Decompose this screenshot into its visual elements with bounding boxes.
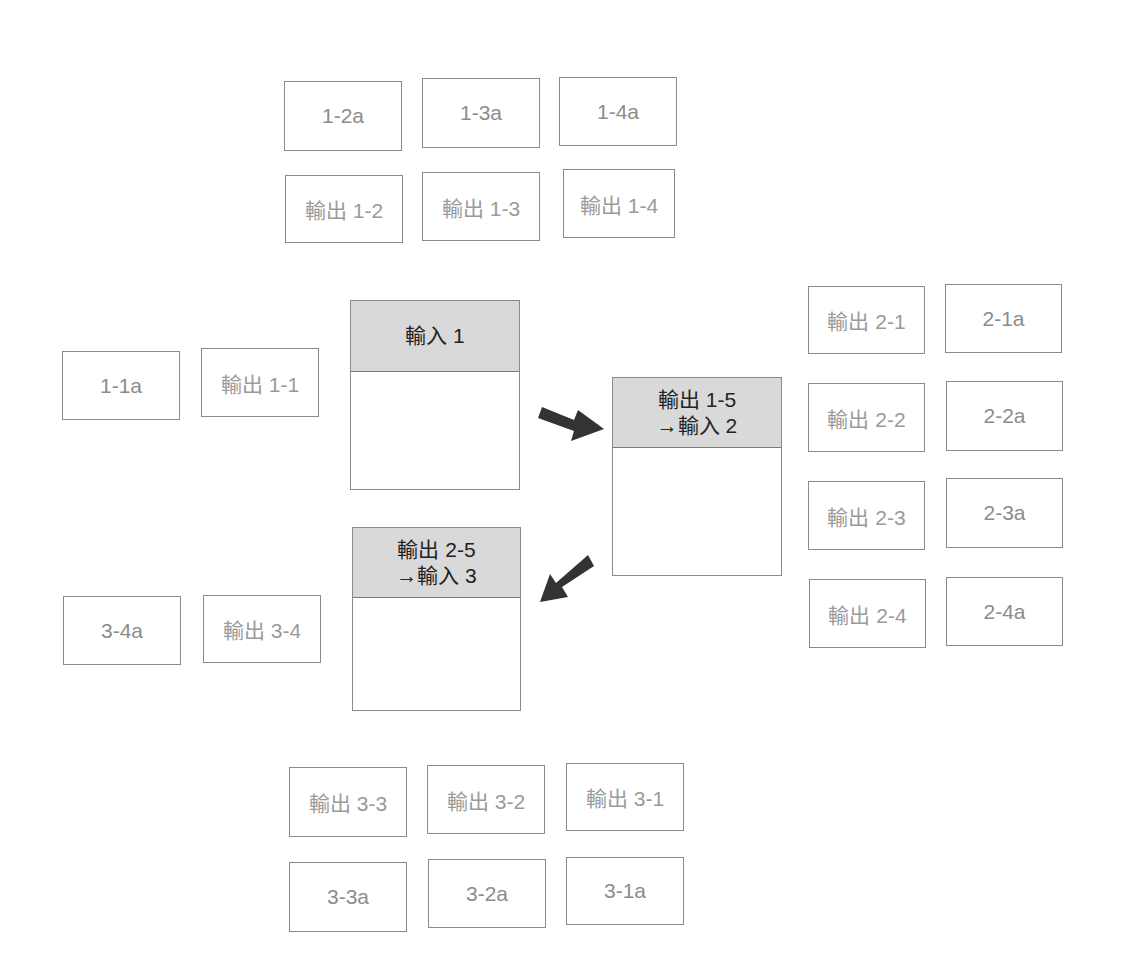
output-1-2: 輸出 1-2 <box>285 175 403 243</box>
answer-3-1a: 3-1a <box>566 857 684 925</box>
answer-2-1a-label: 2-1a <box>982 307 1024 331</box>
output-3-4-label: 輸出 3-4 <box>223 614 301 644</box>
answer-3-2a: 3-2a <box>428 859 546 928</box>
output-1-1: 輸出 1-1 <box>201 348 319 417</box>
stage-3-header-line-2: →輸入 3 <box>396 563 477 589</box>
answer-2-3a-label: 2-3a <box>983 501 1025 525</box>
answer-3-3a-label: 3-3a <box>327 885 369 909</box>
output-3-2-label: 輸出 3-2 <box>447 785 525 815</box>
output-2-4: 輸出 2-4 <box>809 579 926 648</box>
output-2-2-label: 輸出 2-2 <box>827 403 905 433</box>
output-3-4: 輸出 3-4 <box>203 595 321 663</box>
stage-2-header-line-2: →輸入 2 <box>657 413 738 439</box>
output-2-1: 輸出 2-1 <box>808 286 925 354</box>
output-2-3-label: 輸出 2-3 <box>827 501 905 531</box>
stage-3-box: 輸出 2-5 →輸入 3 <box>352 527 521 711</box>
stage-3-header-line-1: 輸出 2-5 <box>397 537 475 563</box>
stage-1-box: 輸入 1 <box>350 300 520 490</box>
answer-1-1a: 1-1a <box>62 351 180 420</box>
output-2-1-label: 輸出 2-1 <box>827 305 905 335</box>
answer-1-4a-label: 1-4a <box>597 100 639 124</box>
output-3-2: 輸出 3-2 <box>427 765 545 834</box>
output-3-1-label: 輸出 3-1 <box>586 782 664 812</box>
answer-1-3a-label: 1-3a <box>460 101 502 125</box>
answer-1-1a-label: 1-1a <box>100 374 142 398</box>
answer-3-4a: 3-4a <box>63 596 181 665</box>
stage-1-header: 輸入 1 <box>351 301 519 372</box>
answer-1-3a: 1-3a <box>422 78 540 148</box>
diagram-canvas: 輸入 1 輸出 1-5 →輸入 2 輸出 2-5 →輸入 3 輸出 1-1 輸出… <box>0 0 1129 978</box>
stage-2-header: 輸出 1-5 →輸入 2 <box>613 378 781 448</box>
output-3-1: 輸出 3-1 <box>566 763 684 831</box>
answer-2-3a: 2-3a <box>946 478 1063 548</box>
answer-3-3a: 3-3a <box>289 862 407 932</box>
stage-1-header-line-1: 輸入 1 <box>405 323 465 349</box>
output-1-1-label: 輸出 1-1 <box>221 368 299 398</box>
output-2-4-label: 輸出 2-4 <box>828 599 906 629</box>
answer-3-4a-label: 3-4a <box>101 619 143 643</box>
stage-3-header: 輸出 2-5 →輸入 3 <box>353 528 520 598</box>
answer-2-2a-label: 2-2a <box>983 404 1025 428</box>
output-2-3: 輸出 2-3 <box>808 481 925 550</box>
output-1-4-label: 輸出 1-4 <box>580 189 658 219</box>
answer-2-4a-label: 2-4a <box>983 600 1025 624</box>
answer-1-2a: 1-2a <box>284 81 402 151</box>
output-2-2: 輸出 2-2 <box>808 383 925 452</box>
answer-1-4a: 1-4a <box>559 77 677 146</box>
answer-3-2a-label: 3-2a <box>466 882 508 906</box>
output-3-3: 輸出 3-3 <box>289 767 407 837</box>
output-1-4: 輸出 1-4 <box>563 169 675 238</box>
stage-2-box: 輸出 1-5 →輸入 2 <box>612 377 782 576</box>
answer-3-1a-label: 3-1a <box>604 879 646 903</box>
answer-2-4a: 2-4a <box>946 577 1063 646</box>
output-1-3: 輸出 1-3 <box>422 172 540 241</box>
output-1-3-label: 輸出 1-3 <box>442 192 520 222</box>
arrow-down-left-icon <box>538 555 594 605</box>
stage-2-header-line-1: 輸出 1-5 <box>658 387 736 413</box>
answer-2-2a: 2-2a <box>946 381 1063 451</box>
output-1-2-label: 輸出 1-2 <box>305 194 383 224</box>
answer-2-1a: 2-1a <box>945 284 1062 353</box>
answer-1-2a-label: 1-2a <box>322 104 364 128</box>
arrow-down-right-icon <box>538 393 608 443</box>
output-3-3-label: 輸出 3-3 <box>309 787 387 817</box>
